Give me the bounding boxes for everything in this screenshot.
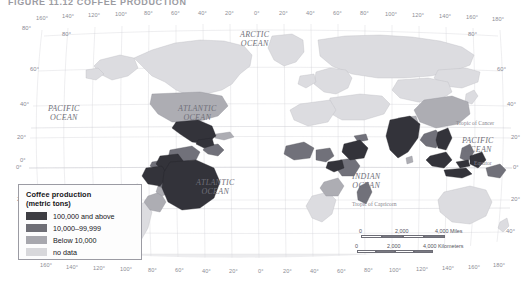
ocean-label-pacific-east: PACIFIC OCEAN: [462, 136, 494, 154]
lat-label-corner-bottomleft: 0°: [20, 157, 26, 163]
scale-bar-km-segment-2: [376, 250, 395, 253]
lat-label-left-40n: 40°: [20, 101, 29, 107]
lon-label-bottom-140w: 140°: [66, 264, 78, 270]
lat-label-left-20n: 20°: [17, 134, 26, 140]
ocean-label-atlantic-north-line2: OCEAN: [183, 113, 211, 122]
ocean-label-arctic-line2: OCEAN: [241, 39, 269, 48]
ocean-label-pacific-west: PACIFIC OCEAN: [48, 104, 80, 122]
legend-swatch-100000-and-above: [26, 212, 47, 220]
scale-bar-miles-zero: 0: [359, 228, 362, 234]
lon-label-bottom-80e: 80°: [364, 267, 373, 273]
ocean-label-pacific-west-line1: PACIFIC: [48, 104, 80, 113]
scale-bar-km-end: 4,000 Kilometers: [423, 243, 463, 249]
ocean-label-atlantic-south-line2: OCEAN: [201, 187, 229, 196]
ocean-label-indian: INDIAN OCEAN: [352, 172, 380, 190]
lon-label-bottom-140e: 140°: [442, 265, 454, 271]
lon-label-top-120e: 120°: [412, 12, 424, 18]
lon-label-bottom-120w: 120°: [93, 265, 105, 271]
lon-label-bottom-0: 0°: [258, 268, 264, 274]
lon-label-bottom-180: 180°: [493, 262, 505, 268]
lat-label-left-0: 0°: [16, 164, 22, 170]
tropic-of-capricorn-label: Tropic of Capricorn: [352, 201, 397, 207]
lon-label-bottom-100e: 100°: [389, 267, 401, 273]
ocean-label-pacific-east-line2: OCEAN: [464, 145, 492, 154]
scale-bar-miles-mid: 2,000: [395, 228, 409, 234]
lon-label-top-100w: 100°: [115, 11, 127, 17]
lon-label-bottom-60e: 60°: [337, 268, 346, 274]
lon-label-bottom-40e: 40°: [310, 268, 319, 274]
legend-label-10000-99999: 10,000–99,999: [53, 224, 101, 233]
tropic-of-cancer-label: Tropic of Cancer: [456, 120, 494, 126]
legend-title: Coffee production: [26, 190, 135, 199]
scale-bar-km-mid: 2,000: [387, 243, 401, 249]
lat-label-right-20n: 20°: [511, 134, 520, 140]
lon-label-top-80e: 80°: [360, 10, 369, 16]
scale-bar-km-zero: 0: [355, 243, 358, 249]
lon-label-bottom-40w: 40°: [202, 268, 211, 274]
lon-label-top-20w: 20°: [225, 10, 234, 16]
lon-label-top-180: 180°: [492, 16, 504, 22]
map-legend: Coffee production (metric tons) 100,000 …: [18, 184, 142, 260]
lon-label-top-160w: 160°: [36, 15, 48, 21]
scale-bar-miles-end: 4,000 Miles: [435, 228, 463, 234]
lon-label-bottom-60w: 60°: [175, 267, 184, 273]
lon-label-bottom-120e: 120°: [416, 266, 428, 272]
ocean-label-atlantic-south-line1: ATLANTIC: [196, 178, 235, 187]
legend-row-1[interactable]: 100,000 and above: [26, 210, 135, 222]
lat-label-right-40n: 40°: [507, 101, 516, 107]
map-scale-bar: 0 2,000 4,000 Miles 0 2,000 4,000 Kilome…: [357, 228, 453, 254]
legend-row-2[interactable]: 10,000–99,999: [26, 222, 135, 234]
lon-label-top-160e: 160°: [466, 14, 478, 20]
lon-label-top-60e: 60°: [333, 10, 342, 16]
legend-subtitle: (metric tons): [26, 199, 135, 208]
lon-label-bottom-160e: 160°: [468, 264, 480, 270]
legend-row-3[interactable]: Below 10,000: [26, 234, 135, 246]
ocean-label-pacific-east-line1: PACIFIC: [462, 136, 494, 145]
lat-label-corner-topleft: 80°: [22, 25, 31, 31]
scale-bar-miles-segment-4: [424, 235, 445, 238]
lon-label-top-40e: 40°: [306, 10, 315, 16]
lat-label-right-80n: 80°: [468, 31, 477, 37]
lon-label-bottom-20w: 20°: [229, 268, 238, 274]
scale-bar-km-segment-3: [395, 250, 414, 253]
ocean-label-atlantic-south: ATLANTIC OCEAN: [196, 178, 235, 196]
legend-row-4[interactable]: no data: [26, 246, 135, 258]
lon-label-top-0: 0°: [254, 10, 260, 16]
scale-bar-km-segment-1: [357, 250, 376, 253]
lat-label-right-40s: 40°: [506, 228, 515, 234]
lat-label-left-80n: 80°: [62, 31, 71, 37]
lat-label-right-20s: 20°: [511, 196, 520, 202]
lon-label-bottom-80w: 80°: [148, 267, 157, 273]
lat-label-right-60n: 60°: [497, 66, 506, 72]
figure-title: FIGURE 11.12 COFFEE PRODUCTION: [8, 0, 187, 7]
legend-swatch-below-10000: [26, 236, 47, 244]
legend-label-below-10000: Below 10,000: [53, 236, 97, 245]
lon-label-bottom-20e: 20°: [283, 268, 292, 274]
legend-swatch-no-data: [26, 248, 47, 256]
lon-label-top-20e: 20°: [279, 10, 288, 16]
lon-label-bottom-100w: 100°: [120, 266, 132, 272]
scale-bar-miles-segment-1: [361, 235, 382, 238]
ocean-label-arctic-line1: ARCTIC: [240, 30, 269, 39]
lon-label-top-60w: 60°: [171, 10, 180, 16]
lon-label-top-40w: 40°: [198, 10, 207, 16]
ocean-label-pacific-west-line2: OCEAN: [50, 113, 78, 122]
lat-label-left-60n: 60°: [30, 66, 39, 72]
ocean-label-indian-line1: INDIAN: [352, 172, 380, 181]
ocean-label-atlantic-north-line1: ATLANTIC: [178, 104, 217, 113]
lon-label-top-120w: 120°: [88, 12, 100, 18]
scale-bar-miles-segment-2: [382, 235, 403, 238]
legend-swatch-10000-99999: [26, 224, 47, 232]
ocean-label-indian-line2: OCEAN: [352, 181, 380, 190]
scale-bar-miles-segment-3: [403, 235, 424, 238]
lon-label-top-80w: 80°: [144, 10, 153, 16]
ocean-label-atlantic-north: ATLANTIC OCEAN: [178, 104, 217, 122]
equator-label: Equator: [474, 160, 492, 166]
lat-label-right-0: 0°: [513, 164, 519, 170]
legend-label-no-data: no data: [53, 248, 77, 257]
lon-label-top-140e: 140°: [439, 13, 451, 19]
lon-label-bottom-160w: 160°: [40, 262, 52, 268]
scale-bar-km-segment-4: [414, 250, 433, 253]
lon-label-top-100e: 100°: [385, 11, 397, 17]
lon-label-top-140w: 140°: [62, 13, 74, 19]
